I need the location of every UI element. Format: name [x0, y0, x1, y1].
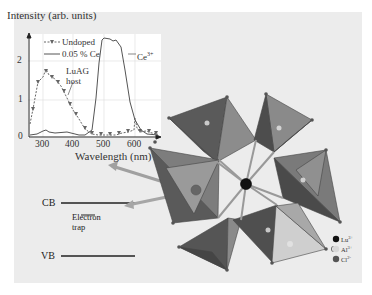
legend-undoped: Undoped [62, 37, 95, 47]
annotation-ce-sup: 3+ [147, 51, 153, 57]
x-tick-400: 400 [65, 139, 79, 149]
cb-label: CB [42, 197, 55, 208]
annotation-host-line2: host [66, 76, 89, 86]
annotation-host: LuAG host [66, 66, 89, 86]
x-tick-600: 600 [127, 139, 141, 149]
vb-label: VB [41, 250, 55, 261]
x-tick-300: 300 [35, 139, 49, 149]
x-tick-500: 500 [96, 139, 110, 149]
legend-cl-charge: 2- [347, 255, 351, 260]
legend-al-charge: 3+ [348, 245, 353, 250]
figure-graphics [0, 0, 372, 295]
legend-ce: 0.05 % Ce [62, 49, 100, 59]
x-axis-label: Wavelength (nm) [75, 150, 151, 162]
y-tick-1: 1 [18, 94, 23, 104]
electron-trap-line1: Electron [72, 212, 101, 222]
electron-trap-label: Electron trap [72, 212, 101, 232]
y-tick-2: 2 [17, 55, 22, 65]
annotation-ce3plus: Ce3+ [137, 49, 153, 62]
legend-lu-charge: 3+ [348, 235, 353, 240]
annotation-ce-text: Ce [137, 52, 147, 62]
y-tick-0: 0 [18, 131, 23, 141]
electron-trap-line2: trap [72, 222, 101, 232]
legend-cl: Cl2- [341, 255, 351, 263]
legend-lu: Lu3+ [341, 235, 353, 243]
crystal-structure [148, 92, 342, 272]
structure-legend-swatches [331, 236, 339, 262]
y-axis-label: Intensity (arb. units) [7, 9, 97, 21]
annotation-host-line1: LuAG [66, 66, 89, 76]
legend-al: Al3+ [341, 245, 352, 253]
